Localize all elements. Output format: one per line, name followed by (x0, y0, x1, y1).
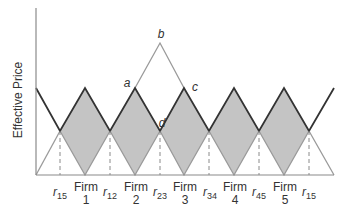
firm-4-region (209, 88, 259, 175)
firm-5-label-bottom: 5 (282, 193, 289, 207)
firm-3-label-top: Firm (173, 180, 197, 194)
firm-2-label-bottom: 2 (133, 193, 140, 207)
y-axis-label: Effective Price (11, 61, 25, 138)
point-label-c: c (192, 80, 198, 94)
point-label-d: d (159, 116, 166, 130)
firm-1-region (60, 88, 110, 175)
firm-2-region (110, 88, 160, 175)
point-label-b: b (158, 27, 165, 41)
firm-5-region (259, 88, 309, 175)
firm-3-region (160, 88, 209, 175)
firm-5-label-top: Firm (273, 180, 297, 194)
point-label-a: a (124, 76, 131, 90)
deviation-peak-line (135, 43, 184, 88)
firm-1-label-top: Firm (74, 180, 98, 194)
boundary-label-r23: r23 (153, 185, 167, 201)
effective-price-diagram: Effective Price b a c d Firm 1 Firm 2 Fi… (0, 0, 354, 210)
boundary-label-r12: r12 (103, 185, 117, 201)
firm-4-label-top: Firm (223, 180, 247, 194)
firm-1-label-bottom: 1 (83, 193, 90, 207)
boundary-label-r15-left: r15 (53, 185, 67, 201)
boundary-label-r45: r45 (252, 185, 266, 201)
firm-3-label-bottom: 3 (182, 193, 189, 207)
boundary-label-r34: r34 (203, 185, 217, 201)
boundary-label-r15-right: r15 (302, 185, 316, 201)
shaded-regions (60, 88, 309, 175)
firm-2-label-top: Firm (124, 180, 148, 194)
firm-4-label-bottom: 4 (232, 193, 239, 207)
